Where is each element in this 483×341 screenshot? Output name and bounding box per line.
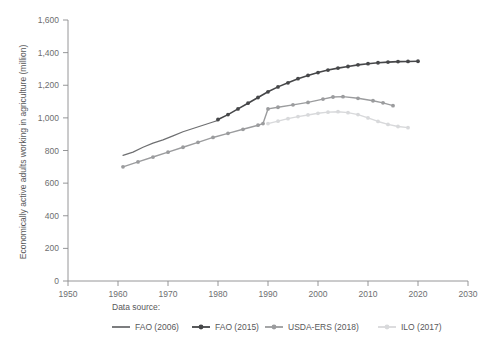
data-point — [331, 95, 335, 99]
series-4 — [266, 110, 410, 130]
data-point — [246, 101, 250, 105]
legend-swatch-marker — [272, 325, 277, 330]
data-point — [266, 90, 270, 94]
series-line — [218, 61, 418, 119]
y-tick-label: 800 — [45, 146, 59, 156]
data-point — [396, 60, 400, 64]
data-point — [226, 113, 230, 117]
x-tick-label: 1970 — [159, 289, 178, 299]
x-tick-label: 2010 — [359, 289, 378, 299]
y-tick-label: 600 — [45, 178, 59, 188]
data-point — [136, 160, 140, 164]
y-tick-label: 1,600 — [38, 15, 60, 25]
x-tick-label: 1950 — [59, 289, 78, 299]
y-tick-label: 0 — [54, 276, 59, 286]
data-point — [241, 127, 245, 131]
chart-container: Economically active adults working in ag… — [0, 0, 483, 341]
data-point — [341, 95, 345, 99]
data-point — [286, 117, 290, 121]
data-point — [196, 140, 200, 144]
series-line — [123, 97, 393, 167]
x-axis-ticks: 195019601970198019902000201020202030 — [59, 281, 478, 299]
legend-item-label: ILO (2017) — [401, 322, 442, 332]
data-point — [256, 96, 260, 100]
chart-legend: FAO (2006)FAO (2015)USDA-ERS (2018)ILO (… — [112, 322, 442, 332]
data-point — [396, 125, 400, 129]
y-axis-title: Economically active adults working in ag… — [18, 45, 28, 260]
data-point — [121, 165, 125, 169]
legend-title: Data source: — [112, 302, 160, 312]
data-point — [296, 77, 300, 81]
data-point — [336, 66, 340, 70]
data-point — [166, 150, 170, 154]
data-point — [356, 96, 360, 100]
legend-item-label: FAO (2015) — [215, 322, 259, 332]
x-tick-label: 2000 — [309, 289, 328, 299]
data-point — [276, 119, 280, 123]
data-point — [406, 60, 410, 64]
y-tick-label: 1,400 — [38, 48, 60, 58]
y-tick-label: 1,000 — [38, 113, 60, 123]
series-1 — [123, 120, 218, 155]
x-tick-label: 1960 — [109, 289, 128, 299]
data-point — [316, 111, 320, 115]
data-point — [381, 101, 385, 105]
series-line — [123, 120, 218, 155]
data-point — [316, 71, 320, 75]
data-point — [181, 145, 185, 149]
y-tick-label: 200 — [45, 243, 59, 253]
data-point — [266, 107, 270, 111]
agriculture-workforce-line-chart: Economically active adults working in ag… — [0, 0, 483, 341]
legend-item-1[interactable]: FAO (2006) — [112, 322, 179, 332]
data-point — [416, 59, 420, 63]
series-3 — [121, 95, 395, 169]
y-tick-label: 1,200 — [38, 80, 60, 90]
data-point — [376, 61, 380, 65]
data-point — [336, 110, 340, 114]
data-point — [391, 104, 395, 108]
y-tick-label: 400 — [45, 211, 59, 221]
y-axis-ticks: 02004006008001,0001,2001,4001,600 — [38, 15, 68, 286]
data-point — [226, 131, 230, 135]
data-point — [306, 74, 310, 78]
data-point — [211, 136, 215, 140]
data-point — [366, 116, 370, 120]
legend-item-3[interactable]: USDA-ERS (2018) — [265, 322, 359, 332]
data-point — [291, 103, 295, 107]
data-point — [286, 81, 290, 85]
data-point — [346, 111, 350, 115]
legend-swatch-marker — [385, 325, 390, 330]
legend-item-4[interactable]: ILO (2017) — [378, 322, 442, 332]
data-point — [151, 155, 155, 159]
data-point — [366, 62, 370, 66]
x-tick-label: 1990 — [259, 289, 278, 299]
x-tick-label: 1980 — [209, 289, 228, 299]
data-point — [386, 60, 390, 64]
x-tick-label: 2020 — [409, 289, 428, 299]
data-point — [376, 120, 380, 124]
data-point — [276, 105, 280, 109]
data-point — [306, 113, 310, 117]
data-point — [216, 118, 220, 122]
data-point — [236, 107, 240, 111]
x-tick-label: 2030 — [459, 289, 478, 299]
legend-swatch-marker — [199, 325, 204, 330]
data-point — [371, 99, 375, 103]
data-point — [346, 65, 350, 69]
y-axis-title-group: Economically active adults working in ag… — [18, 45, 28, 260]
data-point — [326, 68, 330, 72]
data-point — [266, 122, 270, 126]
legend-item-label: USDA-ERS (2018) — [288, 322, 359, 332]
data-point — [386, 123, 390, 127]
data-point — [261, 122, 265, 126]
data-point — [406, 126, 410, 130]
data-point — [326, 110, 330, 114]
data-point — [306, 100, 310, 104]
legend-item-label: FAO (2006) — [135, 322, 179, 332]
data-point — [296, 115, 300, 119]
data-point — [321, 97, 325, 101]
legend-item-2[interactable]: FAO (2015) — [192, 322, 259, 332]
data-series-layer — [121, 59, 420, 168]
data-point — [256, 123, 260, 127]
data-point — [356, 113, 360, 117]
